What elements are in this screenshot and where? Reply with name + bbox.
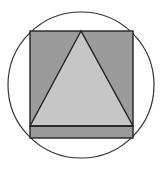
geometry-diagram (0, 0, 162, 171)
